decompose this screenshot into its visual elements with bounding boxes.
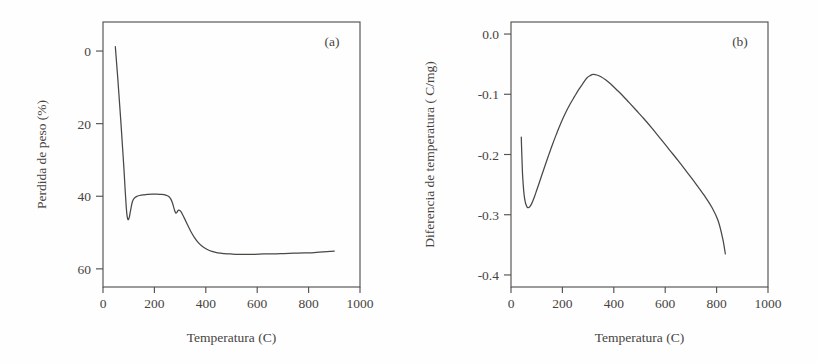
y-tick-label: 20 [78,117,92,132]
panel-label: (b) [732,34,748,49]
y-tick-label: 60 [78,262,92,277]
plot-frame [103,22,360,287]
panel-label: (a) [325,34,340,49]
y-tick-label: 40 [78,189,92,204]
x-tick-label: 400 [604,296,625,311]
x-axis-title: Temperatura (C) [595,330,684,345]
y-axis-title: Perdida de peso (%) [34,100,49,209]
tga-dta-figure: 020040060080010000204060Temperatura (C)P… [0,0,817,363]
x-tick-label: 0 [508,296,515,311]
chart-panel-b: 020040060080010000.0-0.1-0.2-0.3-0.4Temp… [408,0,817,363]
y-tick-label: -0.1 [478,87,499,102]
data-curve-DTA [521,74,725,253]
x-tick-label: 400 [196,296,217,311]
plot-area-a: 020040060080010000204060Temperatura (C)P… [0,0,409,363]
y-tick-label: -0.3 [478,208,500,223]
data-curve-TGA [115,47,334,255]
y-tick-label: 0 [84,44,91,59]
x-tick-label: 0 [100,296,107,311]
x-tick-label: 200 [144,296,165,311]
x-tick-label: 800 [298,296,319,311]
x-tick-label: 800 [706,296,727,311]
plot-area-b: 020040060080010000.0-0.1-0.2-0.3-0.4Temp… [408,0,817,363]
x-tick-label: 1000 [347,296,374,311]
chart-panel-a: 020040060080010000204060Temperatura (C)P… [0,0,409,363]
y-axis-title: Diferencia de temperatura ( C/mg) [422,61,437,248]
x-tick-label: 200 [552,296,573,311]
y-tick-label: -0.4 [478,268,500,283]
y-tick-label: 0.0 [482,27,499,42]
x-tick-label: 600 [655,296,676,311]
x-tick-label: 1000 [755,296,782,311]
x-tick-label: 600 [247,296,268,311]
y-tick-label: -0.2 [478,148,499,163]
x-axis-title: Temperatura (C) [187,330,276,345]
